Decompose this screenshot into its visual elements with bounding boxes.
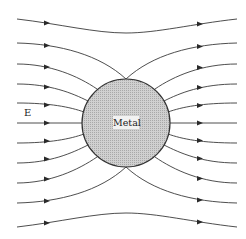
arrow-icon: [44, 85, 50, 90]
arrow-icon: [197, 138, 203, 143]
arrow-icon: [197, 22, 203, 27]
arrow-icon: [44, 139, 50, 144]
arrow-icon: [44, 121, 50, 126]
metal-label: Metal: [113, 116, 139, 129]
arrow-icon: [44, 65, 50, 70]
field-line: [155, 157, 237, 183]
arrow-icon: [197, 156, 203, 161]
field-line: [17, 19, 237, 33]
arrow-icon: [44, 103, 50, 108]
field-line: [17, 43, 237, 79]
arrow-icon: [44, 177, 50, 182]
arrow-icon: [44, 221, 50, 226]
field-line: [17, 134, 84, 143]
diagram-canvas: E Metal: [0, 0, 246, 239]
arrow-icon: [197, 198, 203, 203]
field-line: [17, 157, 97, 183]
arrow-icon: [44, 199, 50, 204]
arrow-icon: [197, 85, 203, 90]
field-label: E: [24, 107, 31, 118]
field-line: [168, 134, 237, 143]
field-line: [17, 64, 97, 89]
arrow-icon: [197, 176, 203, 181]
field-line: [126, 167, 237, 203]
field-line: [168, 103, 237, 112]
arrow-icon: [44, 21, 50, 26]
field-line: [164, 145, 237, 163]
field-line: [155, 64, 237, 89]
arrow-icon: [44, 43, 50, 48]
arrow-icon: [197, 65, 203, 70]
arrowheads-right: [197, 22, 203, 225]
field-line: [17, 213, 237, 227]
arrow-icon: [44, 157, 50, 162]
arrow-icon: [197, 121, 203, 126]
arrow-icon: [197, 103, 203, 108]
arrow-icon: [197, 220, 203, 225]
field-line: [17, 167, 126, 203]
arrow-icon: [197, 44, 203, 49]
field-line: [17, 84, 88, 101]
field-line: [17, 145, 88, 163]
arrowheads-left: [44, 21, 50, 226]
